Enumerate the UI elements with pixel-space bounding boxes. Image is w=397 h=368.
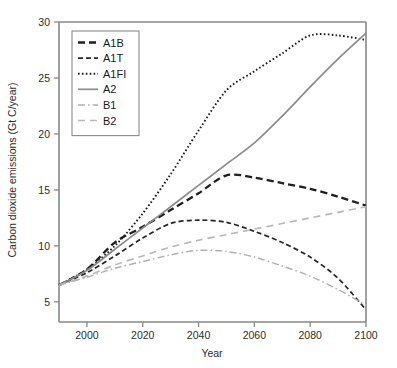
legend-label-a1fi: A1FI — [103, 68, 126, 80]
legend-label-a1b: A1B — [103, 37, 124, 49]
x-axis-title: Year — [201, 347, 223, 359]
y-tick-label: 10 — [38, 240, 50, 252]
chart-container: 200020202040206020802100 51015202530 A1B… — [0, 0, 397, 368]
legend-label-b1: B1 — [103, 99, 116, 111]
y-tick-label: 30 — [38, 16, 50, 28]
y-tick-label: 20 — [38, 128, 50, 140]
y-axis-ticks: 51015202530 — [38, 16, 59, 308]
y-axis-title: Carbon dioxide emissions (Gt C/year) — [6, 82, 18, 257]
y-tick-label: 15 — [38, 184, 50, 196]
x-tick-label: 2000 — [75, 329, 99, 341]
x-axis-ticks: 200020202040206020802100 — [75, 322, 378, 341]
series-line-b2 — [59, 207, 366, 285]
y-tick-label: 25 — [38, 72, 50, 84]
x-tick-label: 2020 — [131, 329, 155, 341]
x-tick-label: 2040 — [187, 329, 211, 341]
series-line-b1 — [59, 250, 366, 305]
x-tick-label: 2100 — [354, 329, 378, 341]
chart-legend: A1BA1TA1FIA2B1B2 — [72, 31, 139, 136]
series-line-a1t — [59, 220, 366, 310]
x-tick-label: 2060 — [243, 329, 267, 341]
legend-label-b2: B2 — [103, 115, 116, 127]
legend-label-a2: A2 — [103, 83, 116, 95]
legend-label-a1t: A1T — [103, 52, 123, 64]
emissions-line-chart: 200020202040206020802100 51015202530 A1B… — [0, 0, 397, 368]
y-tick-label: 5 — [44, 296, 50, 308]
x-tick-label: 2080 — [299, 329, 323, 341]
